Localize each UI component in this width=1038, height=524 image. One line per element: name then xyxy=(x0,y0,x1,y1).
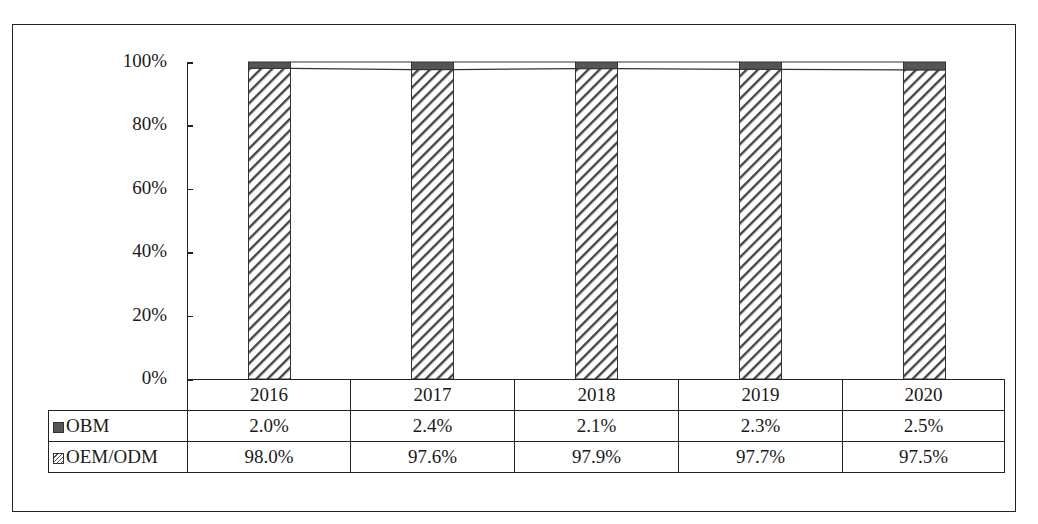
category-2017: 2017 xyxy=(351,380,515,411)
oem-odm-value: 97.9% xyxy=(515,442,679,473)
category-2016: 2016 xyxy=(188,380,351,411)
data-table-row-obm: OBM 2.0% 2.4% 2.1% 2.3% 2.5% xyxy=(49,411,1005,442)
data-table-header-row: 2016 2017 2018 2019 2020 xyxy=(49,380,1005,411)
obm-swatch-icon xyxy=(53,422,64,433)
bar-obm xyxy=(740,62,782,69)
bar-obm xyxy=(904,62,946,70)
bar-obm xyxy=(576,62,618,69)
series-line xyxy=(454,69,576,70)
data-table-row-oem-odm: OEM/ODM 98.0% 97.6% 97.9% 97.7% 97.5% xyxy=(49,442,1005,473)
obm-value: 2.4% xyxy=(351,411,515,442)
oem-odm-value: 97.7% xyxy=(679,442,843,473)
bar-oem-odm xyxy=(249,68,291,379)
category-2019: 2019 xyxy=(679,380,843,411)
series-line xyxy=(618,69,740,70)
oem-odm-value: 97.6% xyxy=(351,442,515,473)
bar-obm xyxy=(412,62,454,70)
bar-oem-odm xyxy=(576,69,618,379)
obm-value: 2.5% xyxy=(843,411,1005,442)
series-line xyxy=(782,69,904,70)
bar-oem-odm xyxy=(412,70,454,379)
legend-oem-odm: OEM/ODM xyxy=(49,442,188,473)
bar-oem-odm xyxy=(740,69,782,379)
category-2018: 2018 xyxy=(515,380,679,411)
data-table: 2016 2017 2018 2019 2020 OBM 2.0% 2.4% 2… xyxy=(48,379,1005,473)
oem-odm-value: 97.5% xyxy=(843,442,1005,473)
category-2020: 2020 xyxy=(843,380,1005,411)
oem-odm-value: 98.0% xyxy=(188,442,351,473)
bar-oem-odm xyxy=(904,70,946,379)
oem-odm-swatch-icon xyxy=(53,453,64,464)
obm-value: 2.0% xyxy=(188,411,351,442)
series-line xyxy=(291,68,412,69)
obm-value: 2.1% xyxy=(515,411,679,442)
legend-obm: OBM xyxy=(49,411,188,442)
obm-value: 2.3% xyxy=(679,411,843,442)
bar-obm xyxy=(249,62,291,68)
